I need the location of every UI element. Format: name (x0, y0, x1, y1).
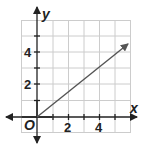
data-ray (37, 44, 128, 117)
origin-label: O (24, 117, 35, 133)
y-tick-label-2: 2 (24, 77, 31, 92)
x-axis-label: x (129, 100, 139, 116)
x-tick-label-4: 4 (95, 120, 103, 135)
x-tick-label-2: 2 (64, 120, 71, 135)
coordinate-graph: y x O 2 4 2 4 (0, 0, 144, 148)
y-tick-label-4: 4 (24, 45, 32, 60)
y-axis-label: y (41, 6, 51, 22)
